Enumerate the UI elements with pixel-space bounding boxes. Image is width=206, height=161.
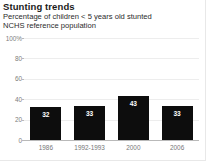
bar-value-label: 33 [162, 110, 193, 117]
y-axis-tick-label: 60 [0, 75, 22, 82]
y-axis-tick-label: 100% [0, 35, 22, 42]
y-axis-tick-label: 80 [0, 55, 22, 62]
figure-header: Stunting trends Percentage of children <… [3, 1, 203, 30]
y-axis-tick-label: 40 [0, 96, 22, 103]
x-axis-tick-label: 2006 [155, 144, 199, 152]
page-title: Stunting trends [3, 1, 203, 12]
chart-subtitle-primary: Percentage of children < 5 years old stu… [3, 12, 203, 21]
gridline [24, 99, 199, 100]
bar: 43 [118, 96, 149, 140]
x-axis-tick-label: 2000 [112, 144, 156, 152]
bar: 33 [162, 106, 193, 140]
bar: 33 [74, 106, 105, 140]
y-axis-tick-label: 0 [0, 137, 22, 144]
stunting-trends-figure: Stunting trends Percentage of children <… [0, 0, 206, 161]
bar-value-label: 32 [30, 111, 61, 118]
y-axis-tick-labels: 100%806040200 [0, 38, 22, 141]
x-axis-tick-label: 1986 [24, 144, 68, 152]
bar-value-label: 33 [74, 110, 105, 117]
x-axis-tick-label: 1992-1993 [68, 144, 112, 152]
gridline [24, 79, 199, 80]
x-axis-line [24, 140, 199, 141]
chart-subtitle-secondary: NCHS reference population [3, 21, 203, 30]
plot-area: 32334333 [24, 38, 199, 140]
bar: 32 [30, 107, 61, 140]
gridline [24, 38, 199, 39]
y-axis-tick-label: 20 [0, 116, 22, 123]
bar-value-label: 43 [118, 100, 149, 107]
gridline [24, 58, 199, 59]
